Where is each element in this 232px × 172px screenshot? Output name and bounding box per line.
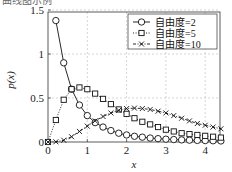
cut-off-caption: 曲线图示例 [2,0,52,6]
y-tick-label: 0 [39,136,45,148]
circle-marker [171,136,177,142]
circle-marker [108,127,114,133]
cross-marker [171,113,176,118]
x-tick-label: 3 [163,144,169,156]
circle-marker [84,112,90,118]
y-tick-label: 1 [39,48,45,60]
square-marker [139,30,144,35]
circle-marker [163,136,169,142]
x-tick-label: 2 [124,144,130,156]
square-marker [132,116,137,121]
square-marker [210,134,215,139]
square-marker [148,122,153,127]
circle-marker [76,102,82,108]
cross-marker [187,118,192,123]
square-marker [140,119,145,124]
x-tick-label: 0 [45,144,51,156]
legend-label: 自由度=5 [155,27,196,39]
circle-marker [155,135,161,141]
circle-marker [138,19,144,25]
cross-marker [77,129,82,134]
square-marker [163,127,168,132]
circle-marker [139,134,145,140]
circle-marker [53,17,59,23]
x-tick-label: 4 [202,144,208,156]
legend: 自由度=2自由度=5自由度=10 [128,14,217,50]
cross-marker [69,134,74,139]
circle-marker [123,132,129,138]
legend-label: 自由度=2 [155,16,196,28]
cross-marker [163,110,168,115]
square-marker [124,111,129,116]
square-marker [218,135,223,140]
cross-marker [101,114,106,119]
circle-marker [147,135,153,141]
y-axis-label: p(x) [4,71,17,90]
circle-marker [131,133,137,139]
square-marker [61,97,66,102]
cross-marker [108,110,113,115]
square-marker [187,131,192,136]
square-marker [100,96,105,101]
square-marker [85,87,90,92]
circle-marker [178,137,184,143]
square-marker [171,129,176,134]
square-marker [93,91,98,96]
circle-marker [61,60,67,66]
y-tick-label: 0.5 [30,92,44,104]
square-marker [116,107,121,112]
circle-marker [116,130,122,136]
chart: 曲线图示例 0123400.511.5 x p(x) 自由度=2自由度=5自由度… [0,0,232,172]
square-marker [179,131,184,136]
cross-marker [179,116,184,121]
square-marker [108,102,113,107]
circle-marker [100,124,106,130]
circle-marker [186,137,192,143]
y-tick-label: 1.5 [30,4,44,16]
square-marker [69,87,74,92]
x-axis-label: x [131,158,137,170]
x-tick-label: 1 [85,144,91,156]
square-marker [77,85,82,90]
square-marker [53,117,58,122]
legend-label: 自由度=10 [155,38,201,50]
square-marker [203,133,208,138]
circle-marker [194,137,200,143]
square-marker [155,124,160,129]
square-marker [195,132,200,137]
